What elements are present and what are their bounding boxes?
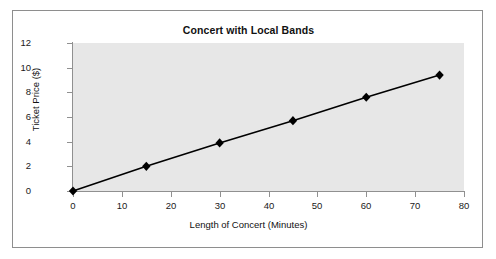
x-tick-label: 70 [395,200,435,211]
y-tick-label: 10 [0,62,31,73]
x-axis-title: Length of Concert (Minutes) [13,219,484,230]
chart-title: Concert with Local Bands [13,24,484,36]
x-tick-mark [122,192,123,197]
x-tick-label: 20 [151,200,191,211]
x-tick-mark [415,192,416,197]
chart-figure: Concert with Local Bands 024681012 01020… [12,10,483,248]
x-tick-mark [73,192,74,197]
y-tick-mark [67,191,72,192]
y-tick-mark [67,43,72,44]
x-tick-label: 40 [249,200,289,211]
x-tick-mark [220,192,221,197]
x-tick-label: 60 [346,200,386,211]
y-axis-line [72,42,73,192]
x-tick-label: 50 [297,200,337,211]
x-tick-mark [464,192,465,197]
x-tick-mark [317,192,318,197]
x-tick-mark [366,192,367,197]
y-tick-mark [67,166,72,167]
y-tick-label: 4 [0,136,31,147]
x-tick-label: 30 [200,200,240,211]
y-tick-mark [67,142,72,143]
y-tick-label: 0 [0,185,31,196]
y-tick-mark [67,92,72,93]
y-tick-label: 8 [0,86,31,97]
x-tick-label: 0 [53,200,93,211]
x-tick-mark [269,192,270,197]
y-tick-label: 2 [0,160,31,171]
x-tick-label: 80 [444,200,484,211]
y-tick-label: 6 [0,111,31,122]
x-tick-label: 10 [102,200,142,211]
y-axis-title: Ticket Price ($) [30,35,41,165]
x-tick-mark [171,192,172,197]
y-tick-label: 12 [0,37,31,48]
plot-area [73,43,464,191]
y-tick-mark [67,68,72,69]
y-tick-mark [67,117,72,118]
